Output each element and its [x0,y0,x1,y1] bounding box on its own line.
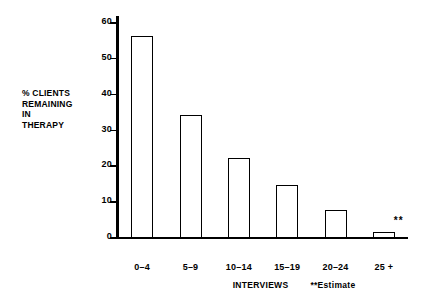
y-tick-label: 10 [90,195,112,205]
bar [276,185,298,237]
y-tick-label: 20 [90,159,112,169]
y-tick-label: 50 [90,52,112,62]
x-axis-line [116,237,408,239]
y-axis-line [116,16,119,237]
y-tick-label: 30 [90,124,112,134]
bar [228,158,250,237]
estimate-asterisk-marker: ** [394,218,404,224]
y-axis-label: % CLIENTS REMAINING IN THERAPY [22,88,72,130]
y-tick-label: 0 [90,231,112,241]
y-tick-label: 60 [90,16,112,26]
bar [325,210,347,237]
estimate-note: **Estimate [310,280,355,290]
x-tick-label: 25 + [354,262,414,272]
chart-footer: INTERVIEWS**Estimate [222,270,355,300]
bar [131,36,153,237]
bar [180,115,202,237]
x-axis-title: INTERVIEWS [233,280,289,290]
bar [373,232,395,237]
plot-area: 0102030405060 ** 0–45–910–1415–1920–2425… [118,22,408,237]
y-tick-label: 40 [90,88,112,98]
chart-page: % CLIENTS REMAINING IN THERAPY 010203040… [0,0,431,304]
